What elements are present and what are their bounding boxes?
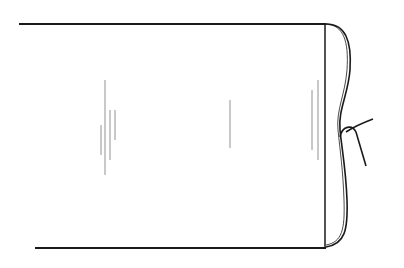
ribbon-strip — [19, 24, 326, 248]
mid-hatching — [101, 80, 318, 175]
knot-tail — [346, 119, 373, 132]
ribbon-illustration — [0, 0, 404, 268]
tie-string — [326, 24, 373, 247]
